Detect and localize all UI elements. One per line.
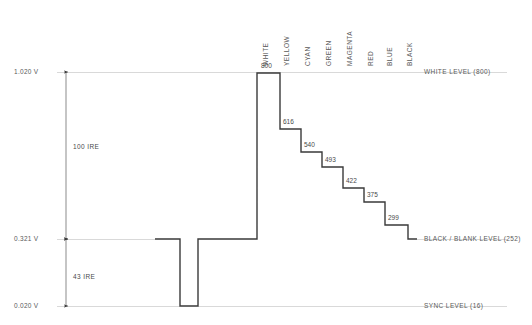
step-value-green: 493 [325, 156, 336, 163]
step-value-yellow: 616 [283, 118, 294, 125]
level-label-sync: SYNC LEVEL (16) [424, 302, 483, 309]
column-header-blue: BLUE [386, 47, 393, 66]
step-value-white: 800 [261, 62, 272, 69]
column-header-magenta: MAGENTA [346, 31, 353, 66]
step-value-magenta: 422 [346, 177, 357, 184]
video-signal-trace [155, 73, 417, 306]
voltage-tick-label: 0.321 V [14, 235, 39, 242]
column-header-red: RED [367, 51, 374, 66]
ire-span-label-43: 43 IRE [73, 273, 95, 280]
column-header-black: BLACK [406, 42, 413, 66]
step-value-cyan: 540 [304, 141, 315, 148]
figure-caption [0, 318, 532, 325]
step-value-red: 375 [367, 191, 378, 198]
level-label-white: WHITE LEVEL (800) [424, 68, 491, 75]
figure-canvas: 1.020 V 0.321 V 0.020 V 100 IRE 43 IRE W… [0, 0, 532, 325]
ire-span-label-100: 100 IRE [73, 143, 99, 150]
voltage-tick-label: 0.020 V [14, 302, 39, 309]
column-header-yellow: YELLOW [283, 36, 290, 66]
column-header-green: GREEN [325, 40, 332, 66]
step-value-blue: 299 [388, 214, 399, 221]
column-header-cyan: CYAN [304, 46, 311, 66]
level-label-black: BLACK / BLANK LEVEL (252) [424, 235, 521, 242]
voltage-tick-label: 1.020 V [14, 68, 39, 75]
